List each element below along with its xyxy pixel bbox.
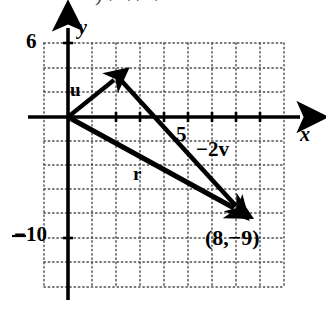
- vector-label-r: r: [133, 164, 141, 183]
- vector-diagram-figure: ) / \ / \: [0, 0, 326, 319]
- x-axis-label: x: [300, 124, 310, 144]
- y-tick-label-6: 6: [26, 31, 37, 52]
- x-tick-label-5: 5: [176, 124, 187, 145]
- y-axis-label: y: [78, 17, 87, 37]
- vector-r-arrow: [68, 117, 234, 208]
- vector-label-minus-2v: −2v: [196, 139, 229, 160]
- diagram-canvas: [0, 0, 326, 319]
- vector-label-u: u: [70, 80, 81, 99]
- y-tick-label-minus-10: −10: [14, 224, 47, 245]
- point-label-8-minus-9: (8,−9): [205, 227, 260, 249]
